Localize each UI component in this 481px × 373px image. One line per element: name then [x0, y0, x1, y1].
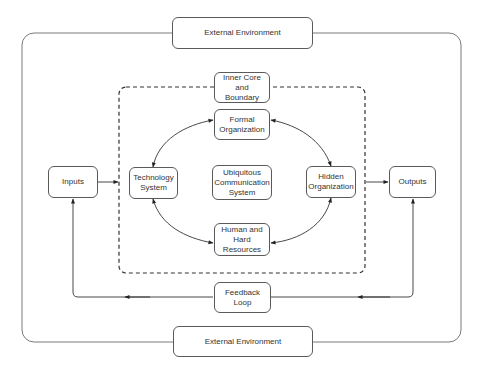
- node-label: External Environment: [205, 337, 281, 347]
- hidden-organization-node: Hidden Organization: [306, 166, 356, 198]
- node-label: Outputs: [398, 177, 426, 187]
- organization-systems-diagram: External Environment Inner Core and Boun…: [0, 0, 481, 373]
- node-label: Inputs: [62, 177, 84, 187]
- external-environment-bottom-node: External Environment: [173, 326, 313, 357]
- node-label: Formal Organization: [219, 115, 264, 135]
- inputs-node: Inputs: [48, 166, 98, 198]
- ubiquitous-communication-system-node: Ubiquitous Communication System: [212, 165, 272, 200]
- node-label: Feedback Loop: [217, 288, 268, 308]
- inner-core-boundary-node: Inner Core and Boundary: [214, 72, 270, 103]
- edge-feedback-to-inputs: [73, 199, 213, 297]
- node-label: External Environment: [204, 28, 280, 38]
- outputs-node: Outputs: [389, 166, 436, 198]
- arc-hidden-human: [271, 198, 331, 243]
- node-label: Ubiquitous Communication System: [214, 168, 270, 198]
- human-hard-resources-node: Human and Hard Resources: [214, 223, 270, 256]
- edge-outputs-to-feedback: [271, 199, 413, 297]
- formal-organization-node: Formal Organization: [214, 109, 270, 140]
- node-label: Human and Hard Resources: [221, 225, 262, 255]
- arc-formal-hidden: [271, 120, 331, 166]
- external-environment-top-node: External Environment: [172, 17, 313, 49]
- feedback-loop-node: Feedback Loop: [214, 282, 271, 313]
- node-label: Technology System: [133, 173, 173, 193]
- arc-technology-formal: [153, 120, 213, 167]
- node-label: Hidden Organization: [308, 172, 353, 192]
- node-label: Inner Core and Boundary: [217, 73, 267, 103]
- technology-system-node: Technology System: [129, 167, 178, 199]
- arc-human-technology: [153, 199, 213, 243]
